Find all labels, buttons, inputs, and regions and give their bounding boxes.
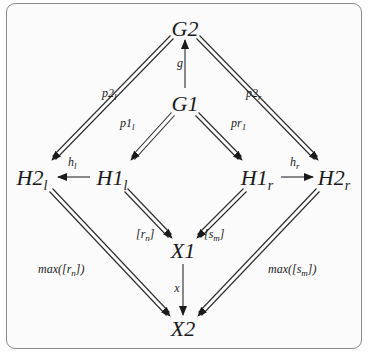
node-G2: G2 <box>172 16 199 41</box>
label-pr1: pr1 <box>230 116 246 132</box>
label-sm: [sm] <box>204 227 225 243</box>
node-X1: X1 <box>170 238 195 263</box>
label-rn: [rn] <box>136 227 155 243</box>
label-p2l: p2l <box>101 86 117 102</box>
node-G1: G1 <box>172 91 199 116</box>
label-p1l: p1l <box>119 116 135 132</box>
label-max-rn: max([rn]) <box>38 262 85 278</box>
commutative-diagram: G2 G1 H2l H1l H1r H2r X1 X2 g p2l p2r p1… <box>0 0 373 357</box>
label-x: x <box>173 281 180 295</box>
node-H1l: H1l <box>96 165 128 193</box>
label-max-sm: max([sm]) <box>268 262 317 278</box>
node-H2r: H2r <box>317 165 351 193</box>
edge-max-rn-double-arrow <box>50 189 171 317</box>
node-H1r: H1r <box>240 165 274 193</box>
edge-max-sm-double-arrow <box>198 189 320 317</box>
label-p2r: p2r <box>245 86 262 102</box>
node-H2l: H2l <box>16 165 48 193</box>
label-hr: hr <box>290 155 300 171</box>
label-g: g <box>177 56 183 70</box>
edge-rn-double-arrow <box>125 189 173 239</box>
edge-p1l-double-arrow <box>131 113 175 161</box>
node-X2: X2 <box>170 316 195 341</box>
label-hl: hl <box>68 155 77 171</box>
